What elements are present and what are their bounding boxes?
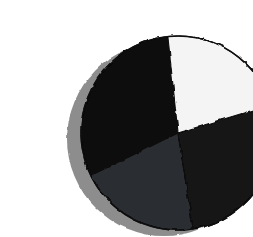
pie-chart-figure: Slice 1 — 30.6%Slice 2 — 20.3%Slice 3 — … (40, 16, 253, 237)
page-root: Slice 1 — 30.6%Slice 2 — 20.3%Slice 3 — … (0, 0, 253, 237)
pie-chart-canvas[interactable]: Slice 1 — 30.6%Slice 2 — 20.3%Slice 3 — … (40, 16, 253, 237)
